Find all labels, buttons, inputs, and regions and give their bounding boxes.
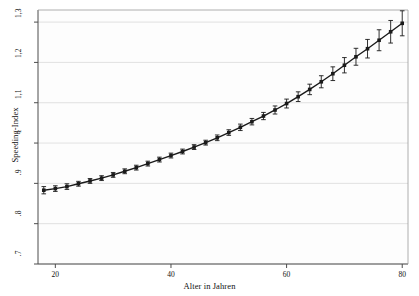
plot-area-background: [38, 10, 408, 264]
data-point-marker: [250, 120, 254, 124]
data-point-marker: [77, 182, 81, 186]
data-point-marker: [42, 188, 46, 192]
data-point-marker: [146, 162, 150, 166]
data-point-marker: [354, 55, 358, 59]
y-tick-label: .8: [14, 210, 23, 236]
speeding-index-line-chart: [0, 0, 419, 296]
data-point-marker: [158, 158, 162, 162]
x-tick-label: 80: [389, 270, 415, 279]
data-point-marker: [377, 38, 381, 42]
data-point-marker: [319, 80, 323, 84]
data-point-marker: [169, 154, 173, 158]
x-axis-title: Alter in Jahren: [0, 281, 419, 291]
data-point-marker: [181, 150, 185, 154]
y-tick-label: 1,3: [14, 9, 23, 35]
x-tick-label: 20: [42, 270, 68, 279]
data-point-marker: [123, 169, 127, 173]
y-tick-label: 1,1: [14, 89, 23, 115]
data-point-marker: [111, 173, 115, 177]
y-tick-label: .9: [14, 170, 23, 196]
data-point-marker: [366, 47, 370, 51]
data-point-marker: [65, 185, 69, 189]
data-point-marker: [239, 126, 243, 130]
data-point-marker: [273, 108, 277, 112]
data-point-marker: [331, 72, 335, 76]
data-point-marker: [54, 187, 58, 191]
data-point-marker: [285, 102, 289, 106]
y-tick-label: 1,2: [14, 49, 23, 75]
data-point-marker: [308, 88, 312, 92]
data-point-marker: [262, 114, 266, 118]
data-point-marker: [100, 176, 104, 180]
data-point-marker: [227, 131, 231, 135]
data-point-marker: [134, 166, 138, 170]
data-point-marker: [215, 136, 219, 140]
x-tick-label: 60: [274, 270, 300, 279]
data-point-marker: [389, 30, 393, 34]
y-tick-label: 1: [14, 130, 23, 156]
data-point-marker: [400, 22, 404, 26]
data-point-marker: [88, 179, 92, 183]
x-tick-label: 40: [158, 270, 184, 279]
data-point-marker: [343, 63, 347, 67]
chart-figure: Speeding-Index Alter in Jahren .7.8.911,…: [0, 0, 419, 296]
data-point-marker: [192, 145, 196, 149]
data-point-marker: [296, 95, 300, 99]
data-point-marker: [204, 141, 208, 145]
y-tick-label: .7: [14, 251, 23, 277]
